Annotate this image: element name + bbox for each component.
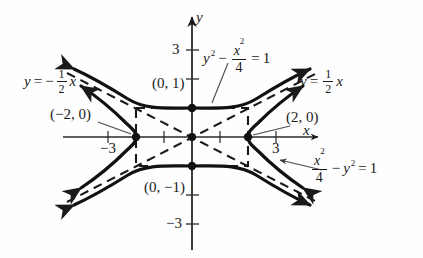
asymptote-label-left: y = − 1 2 x [24, 68, 76, 95]
eq-h-num-exponent: 2 [320, 146, 325, 156]
eq-v-term1-exponent: 2 [211, 49, 216, 58]
asymptote-label-right: y = 1 2 x [300, 68, 343, 95]
asymptote-right-lhs: y [300, 74, 307, 89]
hyperbola-figure: y x 3 −3 −3 3 (0, 1) (0, −1) (−2, 0) (2,… [0, 0, 423, 258]
asymptote-right-fraction: 1 2 [323, 68, 333, 95]
eq-h-term2-exponent: 2 [351, 159, 356, 168]
asymptote-right-denominator: 2 [323, 82, 333, 95]
eq-v-fraction: x2 4 [232, 42, 247, 75]
x-tick-label-3: 3 [272, 141, 280, 156]
asymptote-left-sign: − [45, 74, 53, 89]
eq-v-fraction-numerator: x2 [232, 42, 247, 59]
equation-label-vertical: y2 − x2 4 = 1 [203, 42, 270, 75]
equation-label-horizontal: x2 4 − y2 = 1 [310, 152, 377, 185]
y-tick-label-3: 3 [172, 42, 180, 57]
eq-v-term1-var: y [203, 51, 210, 66]
asymptote-left-variable: x [70, 74, 77, 89]
eq-h-fraction-denominator: 4 [314, 170, 325, 185]
eq-v-rhs: 1 [263, 51, 271, 66]
eq-h-equals: = [356, 161, 368, 176]
point-neg2-0 [132, 133, 140, 141]
asymptote-left-numerator: 1 [57, 68, 67, 81]
point-origin [188, 133, 196, 141]
asymptote-left-lhs: y [24, 74, 31, 89]
eq-h-term2-var: y [343, 161, 350, 176]
asymptote-left-fraction: 1 2 [57, 68, 67, 95]
point-label-right: (2, 0) [286, 110, 319, 125]
x-tick-label-neg3: −3 [100, 141, 116, 156]
point-label-top: (0, 1) [152, 76, 185, 91]
eq-v-equals: = [249, 51, 261, 66]
x-axis-label: x [303, 123, 310, 138]
point-label-bottom: (0, −1) [144, 180, 185, 195]
eq-h-rhs: 1 [370, 161, 378, 176]
y-axis-label: y [196, 10, 203, 25]
eq-v-num-exponent: 2 [240, 36, 245, 46]
point-label-left: (−2, 0) [50, 107, 91, 122]
eq-h-fraction: x2 4 [312, 152, 327, 185]
eq-v-fraction-denominator: 4 [234, 60, 245, 75]
y-tick-label-neg3: −3 [166, 216, 182, 231]
asymptote-right-numerator: 1 [323, 68, 333, 81]
asymptote-left-denominator: 2 [57, 82, 67, 95]
asymptote-right-equals: = [308, 74, 320, 89]
point-2-0 [244, 133, 252, 141]
asymptote-right-variable: x [336, 74, 343, 89]
graph-canvas [0, 0, 423, 258]
eq-v-num-var: x [234, 43, 240, 58]
point-0-1 [188, 104, 196, 112]
eq-h-fraction-numerator: x2 [312, 152, 327, 169]
eq-v-operator: − [216, 51, 228, 66]
eq-h-operator: − [330, 161, 342, 176]
leader-line-right-vertex [253, 126, 290, 135]
point-0-neg1 [188, 162, 196, 170]
asymptote-left-equals: = [32, 74, 44, 89]
